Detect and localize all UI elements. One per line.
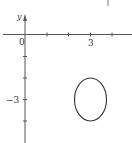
y-axis-arrow-icon [23, 14, 27, 21]
x-tick-label-3: 3 [88, 38, 94, 48]
origin-label: 0 [19, 37, 25, 47]
y-axis-label: y [16, 12, 22, 21]
coordinate-plot: y 0 3 −3 [0, 0, 132, 143]
y-tick-label-neg3: −3 [6, 95, 20, 105]
ellipse-curve [75, 78, 107, 121]
